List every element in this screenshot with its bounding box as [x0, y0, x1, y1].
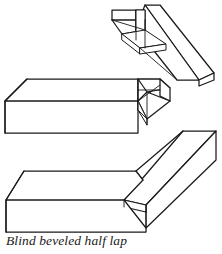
figure-caption: Blind beveled half lap — [6, 233, 216, 249]
middle-board — [5, 79, 170, 133]
middle-board-top-face — [5, 79, 138, 101]
upper-board — [112, 5, 214, 86]
middle-board-front-face — [5, 101, 138, 133]
lower-board — [6, 131, 216, 232]
lower-board-top-face — [6, 171, 143, 200]
figure-root: Blind beveled half lap — [0, 0, 222, 254]
lower-board-front-face — [6, 200, 146, 232]
joint-illustration: Blind beveled half lap — [0, 0, 222, 254]
